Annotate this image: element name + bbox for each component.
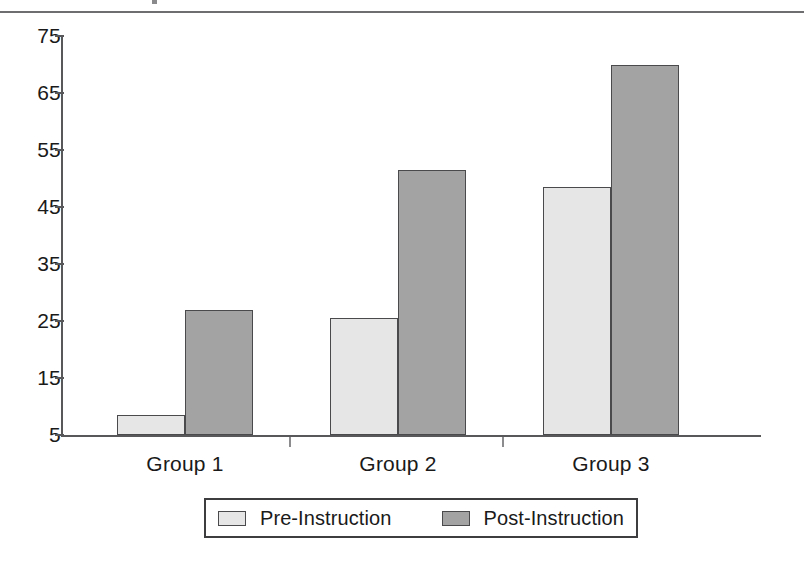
chart-legend: Pre-InstructionPost-Instruction [204,498,638,538]
y-axis-tick-label: 75 [9,25,61,46]
y-axis-tick-label: 25 [9,310,61,331]
x-axis-category-label: Group 3 [531,452,691,476]
page-top-rule [0,11,804,13]
bar-pre-group-2 [330,318,398,435]
bar-post-group-2 [398,170,466,435]
legend-entry-post-instruction: Post-Instruction [442,507,625,529]
x-axis-group-separator [289,437,291,447]
y-axis-tick-label: 15 [9,367,61,388]
bar-group-container [61,36,761,435]
legend-label: Pre-Instruction [260,507,392,529]
y-axis-tick-label: 55 [9,139,61,160]
y-axis-tick-label: 45 [9,196,61,217]
bar-pre-group-1 [117,415,185,435]
x-axis-category-label: Group 2 [318,452,478,476]
x-axis-category-group: Group 1Group 2Group 3 [61,437,761,477]
bar-chart-figure: 756555453525155 Group 1Group 2Group 3 Pr… [0,18,804,563]
y-axis-tick-label: 5 [9,424,61,445]
bar-post-group-3 [611,65,679,436]
y-axis-tick-group: 756555453525155 [0,36,61,436]
bar-pre-group-3 [543,187,611,435]
y-axis-tick-label: 35 [9,253,61,274]
bar-post-group-1 [185,310,253,435]
scan-speck [152,0,157,4]
dark-gray-swatch [442,511,470,526]
legend-entry-pre-instruction: Pre-Instruction [218,507,392,529]
x-axis-category-label: Group 1 [105,452,265,476]
legend-label: Post-Instruction [484,507,625,529]
x-axis-group-separator [502,437,504,447]
y-axis-tick-label: 65 [9,82,61,103]
light-gray-swatch [218,511,246,526]
